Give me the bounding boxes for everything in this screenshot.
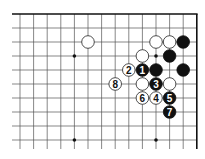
black-stone-1: 1 — [136, 64, 149, 77]
move-number: 1 — [140, 65, 146, 76]
star-point — [154, 138, 158, 142]
stone-disc — [150, 64, 163, 77]
white-stone-4: 4 — [150, 92, 163, 105]
white-stone — [82, 36, 95, 49]
black-stone-3: 3 — [150, 78, 163, 91]
move-number: 3 — [153, 79, 159, 90]
move-number: 8 — [112, 79, 118, 90]
white-stone — [136, 78, 149, 91]
white-stone — [163, 36, 176, 49]
go-board: 21836457 — [0, 0, 205, 159]
white-stone — [136, 50, 149, 63]
stone-disc — [163, 78, 176, 91]
move-number: 6 — [140, 93, 146, 104]
stone-disc — [177, 36, 190, 49]
black-stone — [163, 50, 176, 63]
move-number: 7 — [167, 107, 173, 118]
stone-disc — [82, 36, 95, 49]
black-stone-5: 5 — [163, 92, 176, 105]
black-stone-7: 7 — [163, 106, 176, 119]
stone-disc — [163, 36, 176, 49]
stone-disc — [136, 78, 149, 91]
star-point — [154, 54, 158, 58]
stones: 21836457 — [82, 36, 190, 119]
black-stone — [177, 64, 190, 77]
stone-disc — [177, 64, 190, 77]
stone-disc — [136, 50, 149, 63]
star-point — [73, 138, 77, 142]
move-number: 5 — [167, 93, 173, 104]
white-stone — [163, 78, 176, 91]
move-number: 4 — [153, 93, 159, 104]
stone-disc — [163, 50, 176, 63]
black-stone — [177, 36, 190, 49]
white-stone-2: 2 — [123, 64, 136, 77]
white-stone-6: 6 — [136, 92, 149, 105]
white-stone-8: 8 — [109, 78, 122, 91]
star-point — [73, 54, 77, 58]
move-number: 2 — [126, 65, 132, 76]
stone-disc — [150, 36, 163, 49]
white-stone — [150, 36, 163, 49]
black-stone — [150, 64, 163, 77]
